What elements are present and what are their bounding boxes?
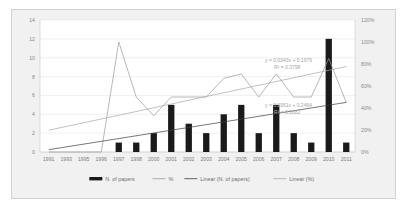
legend-label: N. of papers xyxy=(105,176,135,182)
x-axis-tick-label: 2004 xyxy=(218,156,230,162)
y-axis-tick-label: 10 xyxy=(29,55,35,61)
annotation-r2-percent: R² = 0.3798 xyxy=(274,64,300,70)
legend-bar-swatch xyxy=(89,177,102,180)
legend-item: Linear (%) xyxy=(273,176,314,182)
x-axis-tick-label: 2009 xyxy=(305,156,317,162)
plot-background xyxy=(40,20,355,152)
y-axis-tick-label: 8 xyxy=(32,74,35,80)
bar xyxy=(326,39,332,152)
y2-axis-tick-label: 120% xyxy=(361,17,375,23)
bar xyxy=(133,143,139,152)
x-axis-tick-label: 2002 xyxy=(183,156,195,162)
legend-label: Linear (N. of papers) xyxy=(200,176,250,182)
bar xyxy=(291,133,297,152)
y2-axis-tick-label: 80% xyxy=(361,61,372,67)
annotation-r2-n-of-papers: R² = 0.2882 xyxy=(274,109,300,115)
y2-axis-tick-label: 60% xyxy=(361,83,372,89)
chart-svg: 024681012140%20%40%60%80%100%120%1991199… xyxy=(12,10,395,198)
x-axis-tick-label: 2000 xyxy=(148,156,160,162)
legend-item: N. of papers xyxy=(89,176,135,182)
x-axis-tick-label: 1993 xyxy=(60,156,72,162)
bar xyxy=(221,114,227,152)
x-axis-tick-label: 1998 xyxy=(130,156,142,162)
bar xyxy=(151,133,157,152)
bar xyxy=(203,133,209,152)
y-axis-tick-label: 14 xyxy=(29,17,35,23)
legend-label: Linear (%) xyxy=(289,176,314,182)
x-axis-tick-label: 2010 xyxy=(323,156,335,162)
bar xyxy=(168,105,174,152)
y2-axis-tick-label: 0% xyxy=(361,149,369,155)
bar xyxy=(116,143,122,152)
x-axis-tick-label: 1991 xyxy=(43,156,55,162)
bar xyxy=(308,143,314,152)
x-axis-tick-label: 2007 xyxy=(270,156,282,162)
y-axis-tick-label: 4 xyxy=(32,111,35,117)
annotation-equation-n-of-papers: y = 0.2951x + 0.2464 xyxy=(265,102,312,108)
y2-axis-tick-label: 40% xyxy=(361,105,372,111)
bar xyxy=(238,105,244,152)
chart-container: 024681012140%20%40%60%80%100%120%1991199… xyxy=(11,9,396,199)
x-axis-tick-label: 1997 xyxy=(113,156,125,162)
x-axis-tick-label: 2011 xyxy=(341,156,352,162)
bar xyxy=(343,143,349,152)
annotation-equation-percent: y = 0.0343x + 0.1979 xyxy=(265,57,312,63)
chart-plot-area: 024681012140%20%40%60%80%100%120%1991199… xyxy=(12,10,395,198)
x-axis-tick-label: 2008 xyxy=(288,156,300,162)
bar xyxy=(256,133,262,152)
legend-label: % xyxy=(169,176,174,182)
legend-item: % xyxy=(153,176,174,182)
x-axis-tick-label: 2005 xyxy=(235,156,247,162)
x-axis-tick-label: 1996 xyxy=(95,156,107,162)
legend-item: Linear (N. of papers) xyxy=(184,176,250,182)
y-axis-tick-label: 6 xyxy=(32,92,35,98)
x-axis-tick-label: 1995 xyxy=(78,156,90,162)
x-axis-tick-label: 2003 xyxy=(200,156,212,162)
x-axis-tick-label: 2006 xyxy=(253,156,265,162)
y2-axis-tick-label: 100% xyxy=(361,39,375,45)
x-axis-tick-label: 2001 xyxy=(165,156,177,162)
y-axis-tick-label: 0 xyxy=(32,149,35,155)
y-axis-tick-label: 12 xyxy=(29,36,35,42)
y-axis-tick-label: 2 xyxy=(32,130,35,136)
y2-axis-tick-label: 20% xyxy=(361,127,372,133)
